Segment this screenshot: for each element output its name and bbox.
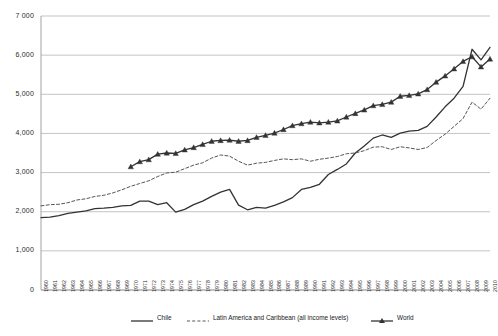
y-tick-label: 4,000 bbox=[0, 129, 34, 136]
x-tick-label: 1972 bbox=[151, 280, 157, 292]
x-tick-label: 1971 bbox=[142, 280, 148, 292]
x-tick-label: 1988 bbox=[294, 280, 300, 292]
x-tick-label: 1975 bbox=[178, 280, 184, 292]
x-tick-label: 1969 bbox=[124, 280, 130, 292]
x-tick-label: 1990 bbox=[312, 280, 318, 292]
legend-swatch bbox=[186, 316, 210, 326]
x-tick-label: 1986 bbox=[276, 280, 282, 292]
legend-swatch bbox=[130, 316, 154, 326]
x-tick-label: 1993 bbox=[339, 280, 345, 292]
x-tick-label: 1999 bbox=[393, 280, 399, 292]
x-tick-label: 1998 bbox=[384, 280, 390, 292]
series-marker-triangle bbox=[146, 157, 151, 162]
x-tick-label: 2000 bbox=[402, 280, 408, 292]
x-tick-label: 1979 bbox=[214, 280, 220, 292]
x-tick-label: 2003 bbox=[429, 280, 435, 292]
x-tick-label: 2005 bbox=[447, 280, 453, 292]
x-tick-label: 1960 bbox=[43, 280, 49, 292]
y-tick-label: 2,000 bbox=[0, 207, 34, 214]
x-tick-label: 1983 bbox=[250, 280, 256, 292]
x-tick-label: 1976 bbox=[187, 280, 193, 292]
x-tick-label: 2007 bbox=[465, 280, 471, 292]
x-tick-label: 2002 bbox=[420, 280, 426, 292]
x-tick-label: 1964 bbox=[79, 280, 85, 292]
x-tick-label: 1978 bbox=[205, 280, 211, 292]
legend-swatch bbox=[370, 316, 394, 326]
legend-label-2: World bbox=[397, 314, 414, 321]
legend-label-1: Latin America and Caribbean (all income … bbox=[213, 314, 348, 321]
x-tick-label: 1982 bbox=[241, 280, 247, 292]
series-marker-triangle bbox=[128, 164, 133, 169]
series-marker-triangle bbox=[487, 56, 492, 61]
y-tick-label: 0 bbox=[0, 286, 34, 293]
x-tick-label: 1973 bbox=[160, 280, 166, 292]
y-tick-label: 1,000 bbox=[0, 246, 34, 253]
axes bbox=[41, 16, 490, 290]
x-tick-label: 1974 bbox=[169, 280, 175, 292]
chart-container: 7 0006,0005,0004,0003,0002,0001,0000 196… bbox=[0, 0, 498, 336]
legend-key-0 bbox=[130, 312, 154, 322]
x-tick-label: 1965 bbox=[88, 280, 94, 292]
gridlines bbox=[41, 16, 490, 290]
legend-key-1 bbox=[186, 312, 210, 322]
x-tick-label: 1980 bbox=[223, 280, 229, 292]
x-tick-label: 1963 bbox=[70, 280, 76, 292]
x-tick-label: 1985 bbox=[268, 280, 274, 292]
x-tick-label: 1992 bbox=[330, 280, 336, 292]
x-tick-label: 1970 bbox=[133, 280, 139, 292]
x-tick-label: 1989 bbox=[303, 280, 309, 292]
legend-label-0: Chile bbox=[157, 314, 172, 321]
x-tick-label: 1997 bbox=[375, 280, 381, 292]
chart-legend: ChileLatin America and Caribbean (all in… bbox=[0, 310, 498, 326]
x-tick-label: 1968 bbox=[115, 280, 121, 292]
x-tick-label: 1987 bbox=[285, 280, 291, 292]
x-tick-label: 1994 bbox=[348, 280, 354, 292]
y-tick-label: 7 000 bbox=[0, 12, 34, 19]
x-tick-label: 1981 bbox=[232, 280, 238, 292]
x-tick-label: 1967 bbox=[106, 280, 112, 292]
x-tick-label: 2010 bbox=[492, 280, 498, 292]
x-tick-label: 1977 bbox=[196, 280, 202, 292]
x-tick-label: 2004 bbox=[438, 280, 444, 292]
x-tick-label: 1996 bbox=[366, 280, 372, 292]
x-tick-label: 2008 bbox=[474, 280, 480, 292]
x-tick-label: 1991 bbox=[321, 280, 327, 292]
y-tick-label: 6,000 bbox=[0, 51, 34, 58]
x-tick-label: 2006 bbox=[456, 280, 462, 292]
data-series-layer bbox=[41, 47, 493, 217]
x-tick-label: 1961 bbox=[52, 280, 58, 292]
x-tick-label: 1995 bbox=[357, 280, 363, 292]
x-tick-label: 1966 bbox=[97, 280, 103, 292]
x-tick-label: 1984 bbox=[259, 280, 265, 292]
x-tick-label: 2009 bbox=[483, 280, 489, 292]
y-tick-label: 5,000 bbox=[0, 90, 34, 97]
y-tick-label: 3,000 bbox=[0, 168, 34, 175]
legend-key-2 bbox=[370, 312, 394, 322]
x-tick-label: 2001 bbox=[411, 280, 417, 292]
series-line-1 bbox=[41, 98, 490, 206]
x-tick-label: 1962 bbox=[61, 280, 67, 292]
